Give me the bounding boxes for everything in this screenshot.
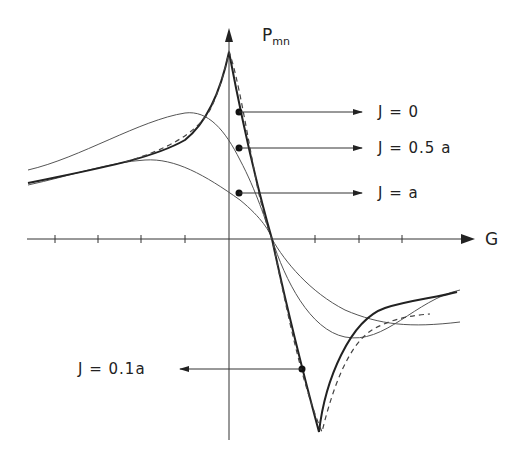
x-axis xyxy=(27,234,475,244)
diagram-canvas xyxy=(0,0,527,462)
y-axis-label: Pmn xyxy=(262,25,290,48)
pointer-j-0.1a xyxy=(180,366,306,373)
pointer-j-0.5a xyxy=(236,145,363,152)
label-j-0.1a: J = 0.1a xyxy=(78,360,146,378)
pointer-j-0 xyxy=(236,109,363,116)
label-j-0: J = 0 xyxy=(378,103,419,121)
x-axis-label: G xyxy=(485,229,498,249)
y-axis xyxy=(225,28,233,440)
label-j-0.5a: J = 0.5 a xyxy=(378,139,451,157)
label-j-a: J = a xyxy=(378,184,419,202)
